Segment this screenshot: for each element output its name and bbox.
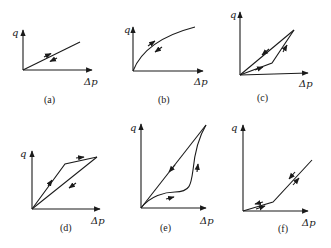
unloading-arrow-icon: [255, 202, 263, 204]
panel-b: q Δp (b): [124, 24, 208, 106]
caption: (d): [60, 222, 72, 234]
unloading-arrow-icon: [169, 165, 175, 172]
y-label: q: [231, 122, 237, 133]
curve: [133, 27, 195, 71]
unloading-arrow-icon: [155, 47, 162, 52]
loading-arrow-icon: [76, 157, 84, 158]
loading-arrow-icon: [166, 197, 174, 199]
x-label: Δp: [83, 76, 98, 87]
panel-d: q Δp (d): [20, 148, 105, 234]
figure-canvas: q Δp (a) q Δp (b) q Δp (c) q Δp: [0, 0, 331, 248]
panel-e: q Δp (e): [130, 122, 214, 234]
x-label: Δp: [301, 217, 316, 228]
caption: (a): [44, 94, 55, 106]
caption: (c): [257, 92, 268, 104]
y-label: q: [20, 148, 26, 159]
panel-f: q Δp (f): [231, 122, 316, 235]
panel-c: q Δp (c): [230, 9, 313, 104]
y-label: q: [230, 9, 236, 20]
y-label: q: [130, 122, 136, 133]
x-label: Δp: [298, 78, 313, 89]
x-label: Δp: [199, 215, 214, 226]
unloading-path: [240, 30, 294, 75]
caption: (e): [160, 222, 171, 234]
unloading-arrow-icon: [50, 58, 57, 62]
unloading-arrow-icon: [69, 183, 76, 188]
panel-a: q Δp (a): [12, 27, 98, 106]
y-label: q: [12, 27, 18, 38]
y-label: q: [124, 24, 130, 35]
curve: [23, 42, 80, 70]
x-label: Δp: [90, 215, 105, 226]
x-axis-arrow-icon: [240, 73, 308, 75]
caption: (b): [158, 94, 170, 106]
unloading-arrow-icon: [289, 172, 295, 179]
loading-arrow-icon: [197, 164, 198, 172]
curve: [243, 160, 312, 211]
x-label: Δp: [193, 76, 208, 87]
caption: (f): [278, 223, 288, 235]
